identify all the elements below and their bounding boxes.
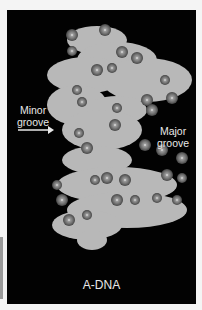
major-groove-label: Major groove [157, 125, 189, 149]
minor-groove-label: Minor groove [17, 104, 49, 128]
dna-figure-panel: Minor groove Major groove A-DNA [7, 10, 196, 304]
major-groove-label-line2: groove [157, 137, 189, 149]
figure-title: A-DNA [7, 279, 196, 291]
major-groove-label-line1: Major [157, 125, 189, 137]
minor-groove-label-line1: Minor [17, 104, 49, 116]
arrow-right-icon [18, 126, 54, 134]
side-bar [0, 237, 3, 299]
dna-space-filling-model [7, 10, 196, 304]
